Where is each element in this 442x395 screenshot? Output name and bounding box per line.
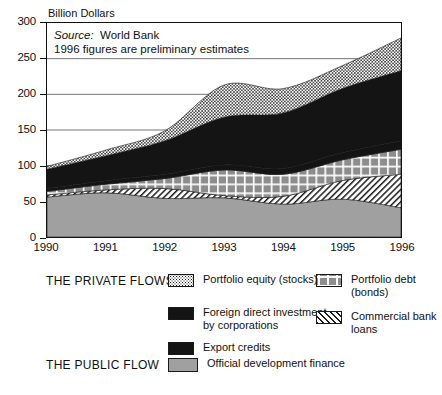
legend-item-export-credits[interactable]: Export credits xyxy=(168,341,270,355)
portfolio-debt-swatch-icon xyxy=(316,274,342,287)
y-axis: 300250200150100500 xyxy=(0,0,44,240)
x-axis: 1990199119921993199419951996 xyxy=(0,241,442,259)
export-credits-swatch-icon xyxy=(168,342,194,355)
x-tick-label: 1992 xyxy=(152,241,177,253)
x-tick-label: 1991 xyxy=(93,241,118,253)
legend-item-official-development-finance[interactable]: Official development finance xyxy=(168,357,345,372)
source-label: Source: xyxy=(54,29,94,41)
stacked-area-chart: Billion Dollars 300250200150100500 xyxy=(0,0,442,262)
y-tick-label: 250 xyxy=(17,52,36,64)
y-tick-mark xyxy=(40,238,46,239)
legend-item-portfolio-debt[interactable]: Portfolio debt (bonds) xyxy=(316,273,442,298)
y-tick-label: 150 xyxy=(17,124,36,136)
x-tick-label: 1994 xyxy=(271,241,296,253)
legend-group-public-flow: THE PUBLIC FLOW xyxy=(46,359,159,372)
series-layer xyxy=(47,38,401,237)
x-tick-label: 1990 xyxy=(34,241,59,253)
legend-item-label: Commercial bank loans xyxy=(351,310,442,335)
legend-item-portfolio-equity[interactable]: Portfolio equity (stocks) xyxy=(168,273,317,287)
commercial-bank-loans-swatch-icon xyxy=(316,311,342,324)
x-tick-label: 1996 xyxy=(390,241,415,253)
official-development-finance-swatch-icon xyxy=(168,358,198,372)
fdi-swatch-icon xyxy=(168,307,194,320)
chart-page: Billion Dollars 300250200150100500 xyxy=(0,0,442,395)
legend-item-fdi[interactable]: Foreign direct investment by corporation… xyxy=(168,306,327,331)
source-value: World Bank xyxy=(100,29,159,41)
legend-group-private-flows: THE PRIVATE FLOWS xyxy=(46,275,174,288)
legend-item-commercial-bank-loans[interactable]: Commercial bank loans xyxy=(316,310,442,335)
legend-item-label: Official development finance xyxy=(207,357,345,370)
legend-item-label: Portfolio equity (stocks) xyxy=(203,273,317,286)
x-tick-label: 1995 xyxy=(330,241,355,253)
legend: THE PRIVATE FLOWS THE PUBLIC FLOW Portfo… xyxy=(0,262,442,395)
y-tick-label: 300 xyxy=(17,16,36,28)
legend-item-label: Export credits xyxy=(203,341,270,354)
y-tick-label: 200 xyxy=(17,88,36,100)
source-line: Source: World Bank xyxy=(54,28,251,42)
legend-item-label: Portfolio debt (bonds) xyxy=(351,273,442,298)
y-tick-label: 100 xyxy=(17,160,36,172)
source-note-box: Source: World Bank 1996 figures are prel… xyxy=(49,25,255,60)
y-axis-title: Billion Dollars xyxy=(48,7,115,19)
y-tick-label: 50 xyxy=(24,196,36,208)
legend-item-label: Foreign direct investment by corporation… xyxy=(203,306,327,331)
preliminary-note: 1996 figures are preliminary estimates xyxy=(54,42,251,56)
portfolio-equity-swatch-icon xyxy=(168,274,194,287)
x-tick-label: 1993 xyxy=(212,241,237,253)
